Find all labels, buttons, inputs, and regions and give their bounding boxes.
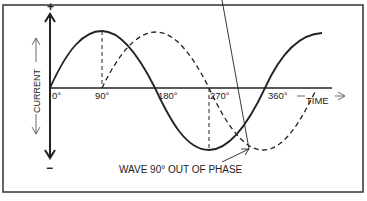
time-axis-label: TIME: [306, 95, 329, 106]
current-axis-label: CURRENT: [32, 68, 42, 113]
positive-label: +: [47, 0, 54, 14]
tick-0: 0°: [52, 90, 61, 101]
phase-diagram: + − CURRENT TIME 0° 90° 180° 270° 360° W…: [0, 0, 367, 201]
annotation-pointer-line: [222, 149, 249, 162]
tick-90: 90°: [95, 90, 110, 101]
phase-annotation: WAVE 90° OUT OF PHASE: [119, 164, 243, 175]
annotation-pointer: [222, 0, 249, 149]
negative-label: −: [46, 161, 53, 175]
tick-360: 360°: [268, 90, 288, 101]
